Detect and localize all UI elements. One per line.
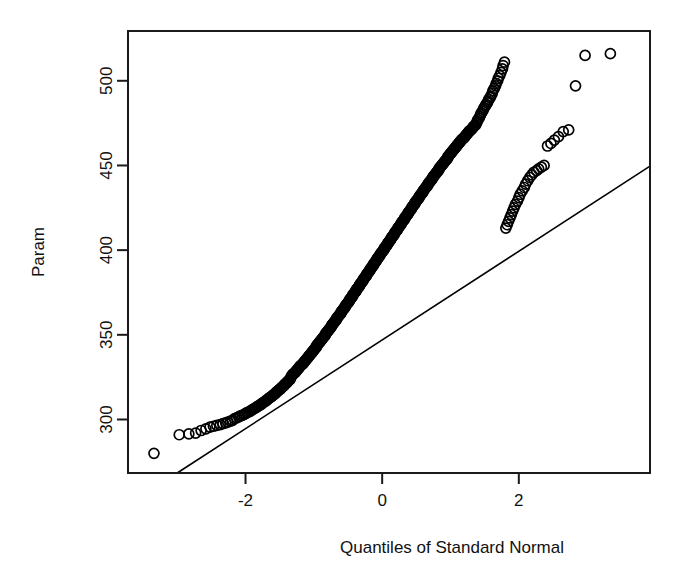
x-axis-tick-label: -2 — [238, 491, 253, 510]
x-axis-tick-label: 0 — [377, 491, 386, 510]
y-axis-tick-label: 350 — [97, 321, 116, 349]
y-axis-tick-label: 300 — [97, 405, 116, 433]
y-axis-tick-label: 400 — [97, 236, 116, 264]
x-axis-title: Quantiles of Standard Normal — [340, 538, 564, 557]
qq-plot-figure: -202 300350400450500 Quantiles of Standa… — [0, 0, 687, 584]
x-axis-tick-label: 2 — [514, 491, 523, 510]
y-axis-tick-label: 500 — [97, 67, 116, 95]
qq-plot-canvas: -202 300350400450500 Quantiles of Standa… — [0, 0, 687, 584]
y-axis-title: Param — [29, 227, 48, 277]
y-axis-tick-label: 450 — [97, 151, 116, 179]
